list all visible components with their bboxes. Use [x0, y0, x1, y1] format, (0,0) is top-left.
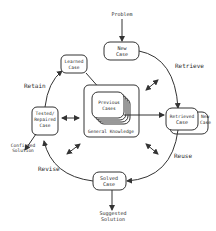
problem-input: Problem	[111, 11, 132, 41]
cbr-cycle-diagram: Problem New Case Retrieve Retrieved Case…	[0, 0, 216, 231]
reuse-arc	[127, 130, 178, 181]
node-new-case: New Case	[104, 42, 139, 60]
knowledge-arrow-top-right	[146, 80, 158, 90]
retain-arc	[45, 71, 62, 107]
svg-text:Case: Case	[116, 51, 128, 57]
svg-text:Tested/: Tested/	[36, 111, 55, 116]
svg-text:Case: Case	[103, 181, 115, 187]
svg-text:Case: Case	[200, 120, 211, 125]
previous-cases-line1: Previous	[98, 100, 120, 105]
revise-arc	[44, 141, 93, 181]
node-learned-case: Learned Case	[61, 55, 87, 73]
svg-text:Case: Case	[40, 123, 51, 128]
node-tested-repaired-case: Tested/ Repaired Case	[32, 107, 58, 135]
knowledge-arrow-bottom-right	[146, 144, 158, 154]
node-solved-case: Solved Case	[93, 172, 126, 190]
svg-text:New: New	[201, 114, 209, 119]
phase-retain: Retain	[24, 82, 46, 89]
svg-text:Learned: Learned	[65, 59, 84, 64]
svg-text:Case: Case	[176, 119, 188, 125]
retrieve-arc	[139, 51, 178, 108]
svg-text:Case: Case	[69, 65, 80, 70]
phase-retrieve: Retrieve	[175, 62, 204, 69]
knowledge-arrow-bottom-left	[67, 144, 80, 154]
svg-text:Repaired: Repaired	[34, 117, 56, 122]
previous-cases-line2: Cases	[102, 106, 116, 111]
phase-revise: Revise	[38, 165, 60, 172]
problem-label: Problem	[111, 11, 132, 17]
suggested-solution-line2: Solution	[101, 216, 125, 222]
general-knowledge-label: General Knowledge	[88, 129, 134, 134]
confirmed-solution-line2: Solution	[12, 148, 34, 153]
node-retrieved-case: Retrieved Case New Case	[166, 108, 211, 134]
knowledge-base: Previous Cases General Knowledge	[84, 85, 139, 137]
phase-reuse: Reuse	[174, 152, 192, 159]
